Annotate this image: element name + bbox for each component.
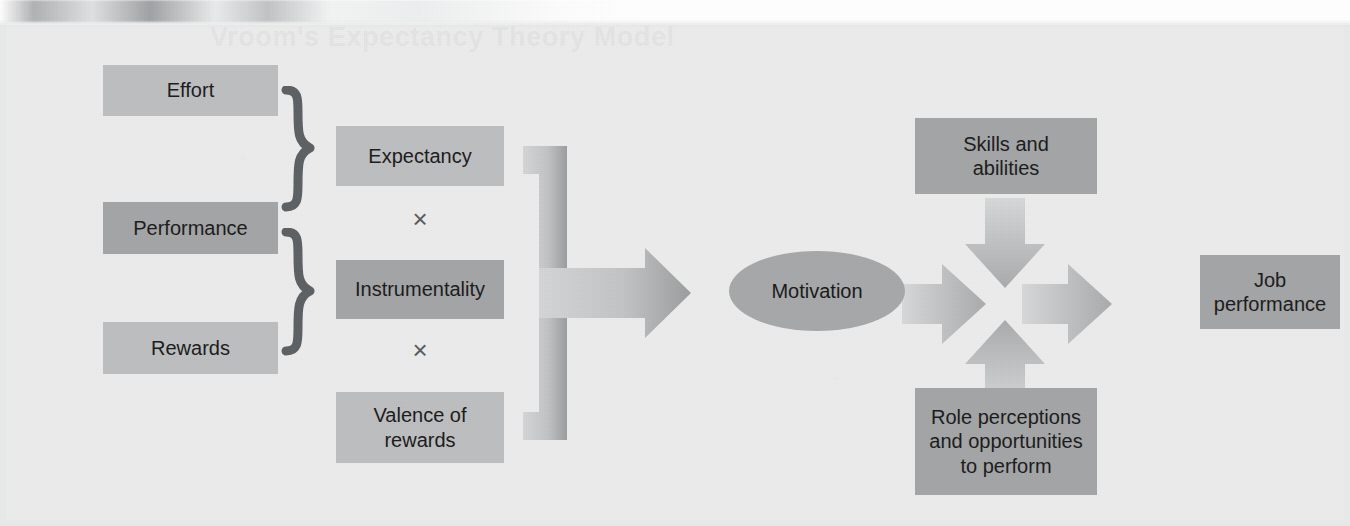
node-motivation: Motivation [729, 251, 905, 331]
node-skills-and-abilities: Skills and abilities [915, 118, 1097, 194]
node-job-line1: Job [1254, 268, 1286, 292]
node-job-performance: Job performance [1200, 255, 1340, 329]
node-expectancy: Expectancy [336, 126, 504, 186]
page-bleed-strip [0, 0, 640, 22]
node-performance-label: Performance [133, 216, 248, 240]
node-motivation-label: Motivation [771, 280, 862, 303]
node-role-line3: to perform [960, 454, 1051, 478]
node-job-line2: performance [1214, 292, 1326, 316]
node-skills-line1: Skills and [963, 132, 1049, 156]
node-rewards-label: Rewards [151, 336, 230, 360]
operator-multiply-bottom: × [336, 331, 504, 369]
node-effort-label: Effort [167, 78, 214, 102]
node-valence-line1: Valence of [373, 403, 466, 427]
operator-multiply-top: × [336, 200, 504, 238]
arrow-hub-to-job-performance [1022, 262, 1114, 346]
brace-performance-rewards-icon [278, 228, 318, 356]
node-rewards: Rewards [103, 322, 278, 374]
node-valence-line2: rewards [384, 428, 455, 452]
node-expectancy-label: Expectancy [368, 144, 471, 168]
ghost-header-text: Vroom's Expectancy Theory Model [210, 22, 730, 56]
node-valence-of-rewards: Valence of rewards [336, 392, 504, 463]
brace-effort-performance-icon [278, 86, 318, 212]
node-instrumentality-label: Instrumentality [355, 277, 485, 301]
node-role-perceptions: Role perceptions and opportunities to pe… [915, 388, 1097, 495]
node-role-line1: Role perceptions [931, 405, 1081, 429]
node-skills-line2: abilities [973, 156, 1040, 180]
node-effort: Effort [103, 65, 278, 116]
node-performance: Performance [103, 202, 278, 254]
figure-canvas: Vroom's Expectancy Theory Model [0, 0, 1350, 526]
manifold-arrow-to-motivation [505, 140, 725, 460]
node-role-line2: and opportunities [929, 429, 1082, 453]
node-instrumentality: Instrumentality [336, 260, 504, 319]
